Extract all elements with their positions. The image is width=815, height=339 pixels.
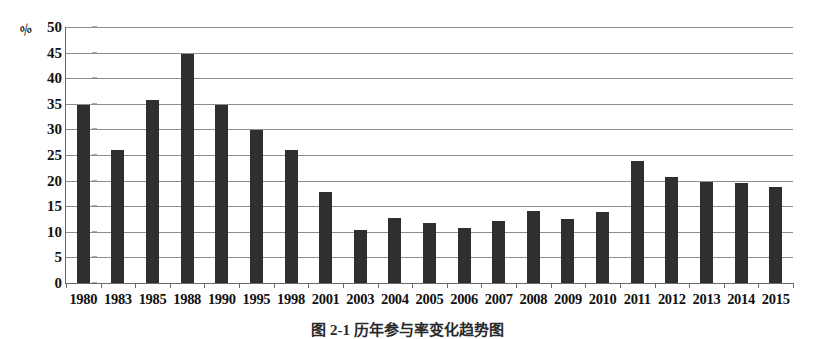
y-axis: 05101520253035404550 — [30, 19, 62, 284]
bar — [700, 182, 713, 283]
x-axis-tick-mark — [724, 283, 725, 288]
x-axis-tick-mark — [135, 283, 136, 288]
x-axis-tick-label: 2006 — [450, 291, 478, 308]
x-axis-tick-label: 2008 — [519, 291, 547, 308]
y-axis-tick-label: 10 — [47, 224, 62, 239]
y-axis-tick-label: 5 — [55, 250, 63, 265]
x-axis-tick-label: 1995 — [242, 291, 270, 308]
x-axis-tick-mark — [551, 283, 552, 288]
x-axis-tick-mark — [481, 283, 482, 288]
bar — [146, 100, 159, 283]
x-axis-tick-label: 2003 — [346, 291, 374, 308]
x-axis-tick-mark — [412, 283, 413, 288]
bar — [665, 177, 678, 283]
x-axis-tick-mark — [620, 283, 621, 288]
bar — [77, 105, 90, 283]
x-axis-tick-mark — [101, 283, 102, 288]
bar — [111, 150, 124, 283]
x-axis-tick-label: 1983 — [104, 291, 132, 308]
x-axis-tick-mark — [689, 283, 690, 288]
bar — [458, 228, 471, 283]
x-axis-tick-mark — [239, 283, 240, 288]
x-axis-tick-label: 2015 — [762, 291, 790, 308]
bar — [527, 211, 540, 283]
x-axis-tick-mark — [170, 283, 171, 288]
x-axis-tick-label: 2005 — [416, 291, 444, 308]
y-axis-tick-label: 20 — [47, 173, 62, 188]
x-axis-tick-mark — [655, 283, 656, 288]
y-axis-tick-label: 0 — [55, 276, 63, 291]
bar — [285, 150, 298, 283]
x-axis-tick-mark — [66, 283, 67, 288]
x-axis-tick-label: 2007 — [485, 291, 513, 308]
x-axis-tick-mark — [793, 283, 794, 288]
x-axis-tick-label: 2014 — [727, 291, 755, 308]
x-axis-tick-label: 2011 — [624, 291, 651, 308]
bar — [735, 183, 748, 283]
bar — [631, 161, 644, 283]
bar — [250, 130, 263, 283]
figure-caption: 图 2-1 历年参与率变化趋势图 — [0, 318, 815, 339]
y-axis-tick-label: 45 — [47, 45, 62, 60]
x-axis-tick-label: 1985 — [139, 291, 167, 308]
x-axis-tick-label: 1980 — [69, 291, 97, 308]
bar — [596, 212, 609, 283]
x-axis-tick-label: 1998 — [277, 291, 305, 308]
x-axis-tick-mark — [516, 283, 517, 288]
bar — [492, 221, 505, 283]
x-axis-tick-label: 2012 — [658, 291, 686, 308]
y-axis-tick-label: 50 — [47, 20, 62, 35]
bar — [388, 218, 401, 283]
x-axis-tick-mark — [378, 283, 379, 288]
bar — [215, 105, 228, 283]
x-axis-tick-mark — [343, 283, 344, 288]
y-axis-tick-label: 40 — [47, 71, 62, 86]
x-axis-tick-label: 2009 — [554, 291, 582, 308]
x-axis-tick-label: 2004 — [381, 291, 409, 308]
x-axis-tick-label: 2013 — [693, 291, 721, 308]
x-axis-tick-mark — [204, 283, 205, 288]
x-axis-tick-mark — [274, 283, 275, 288]
x-axis: 1980198319851988199019951998200120032004… — [66, 283, 793, 309]
x-axis-tick-label: 1988 — [173, 291, 201, 308]
y-axis-tick-label: 30 — [47, 122, 62, 137]
y-axis-tick-label: 35 — [47, 96, 62, 111]
x-axis-tick-label: 1990 — [208, 291, 236, 308]
x-axis-tick-mark — [758, 283, 759, 288]
y-axis-tick-label: 15 — [47, 199, 62, 214]
bar — [354, 230, 367, 283]
x-axis-tick-mark — [447, 283, 448, 288]
x-axis-tick-mark — [308, 283, 309, 288]
y-axis-tick-label: 25 — [47, 148, 62, 163]
x-axis-tick-mark — [585, 283, 586, 288]
bar — [423, 223, 436, 283]
bar — [561, 219, 574, 284]
bars-layer — [66, 27, 793, 283]
plot-area — [66, 27, 793, 283]
bar — [319, 192, 332, 283]
x-axis-tick-label: 2010 — [589, 291, 617, 308]
x-axis-tick-label: 2001 — [312, 291, 340, 308]
bar — [181, 54, 194, 283]
bar — [769, 187, 782, 283]
